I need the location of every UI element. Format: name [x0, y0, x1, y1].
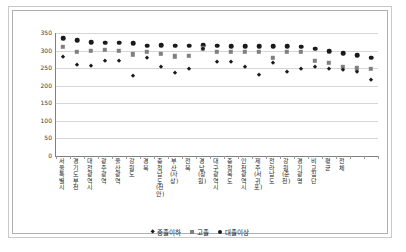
y-axis-tick-label: 0 [48, 153, 52, 159]
data-point [75, 63, 80, 68]
x-axis-label: 경남(창원) [198, 158, 206, 184]
chart-canvas: 050100150200250300350 서울특별시경기도부천대전광역시광주광… [12, 10, 388, 234]
x-axis-label: 경기도부천 [72, 158, 80, 191]
data-point [369, 55, 374, 60]
data-point [215, 43, 220, 48]
data-point [61, 54, 66, 59]
plot-area: 050100150200250300350 [55, 33, 378, 157]
data-point [159, 52, 163, 56]
data-point [313, 59, 317, 63]
gridline [56, 138, 378, 139]
data-point [243, 44, 248, 49]
data-point [117, 48, 121, 52]
y-axis-tick-label: 150 [41, 100, 52, 106]
gridline [56, 33, 378, 34]
data-point [257, 44, 262, 49]
data-point [61, 45, 65, 49]
y-axis-tick-label: 350 [41, 30, 52, 36]
x-axis-label: 충청북도 [226, 158, 234, 184]
data-point [299, 50, 303, 54]
chart-legend: 중졸이하고졸대졸이상 [13, 227, 387, 237]
x-axis-label: 인천광역시 [240, 158, 248, 191]
chart-screenshot: 050100150200250300350 서울특별시경기도부천대전광역시광주광… [0, 0, 406, 252]
y-axis-tick-label: 300 [41, 48, 52, 54]
data-point [271, 44, 276, 49]
data-point [187, 43, 192, 48]
legend-label: 대졸이상 [225, 227, 249, 237]
data-point [355, 53, 360, 58]
data-point [103, 47, 107, 51]
x-axis-label: 평균 [324, 158, 332, 171]
data-point [103, 41, 108, 46]
x-axis-label: 비교집단 [310, 158, 318, 184]
y-axis-tick-label: 200 [41, 83, 52, 89]
gridline [56, 103, 378, 104]
data-point [117, 41, 122, 46]
y-axis-tick-label: 100 [41, 118, 52, 124]
x-axis-label: 울산광역 [114, 158, 122, 184]
data-point [131, 41, 136, 46]
data-point [173, 71, 178, 76]
x-axis-label: 광주광역 [100, 158, 108, 184]
y-axis-tick-label: 50 [44, 135, 52, 141]
data-point [285, 49, 289, 53]
legend-label: 중졸이하 [157, 227, 181, 237]
x-axis-label: 경기광명 [296, 158, 304, 184]
x-axis-label: 대구광역시 [212, 158, 220, 191]
data-point [229, 59, 234, 64]
data-point [229, 44, 234, 49]
data-point [173, 54, 177, 58]
data-point [173, 43, 178, 48]
data-point [187, 54, 191, 58]
x-axis-label: 충청남도(천안) [156, 158, 164, 198]
data-point [145, 49, 149, 53]
legend-label: 고졸 [197, 227, 209, 237]
data-point [285, 69, 290, 74]
x-axis-label: 경북 [142, 158, 150, 171]
y-axis-tick-label: 250 [41, 65, 52, 71]
x-axis-label: 부산(사상) [170, 158, 178, 184]
data-point [103, 59, 108, 64]
data-point [61, 36, 66, 41]
gridline [56, 86, 378, 87]
x-axis-labels: 서울특별시경기도부천대전광역시광주광역울산광역강원도경북충청남도(천안)부산(사… [55, 158, 377, 220]
data-point [257, 50, 261, 54]
data-point [285, 44, 290, 49]
data-point [215, 59, 220, 64]
legend-item: 대졸이상 [218, 227, 249, 237]
data-point [145, 55, 150, 60]
x-axis-tick [378, 156, 379, 159]
data-point [327, 49, 332, 54]
x-axis-label: 강원도 [128, 158, 136, 178]
data-point [257, 73, 262, 78]
diamond-marker-icon [150, 230, 155, 235]
data-point [89, 48, 93, 52]
data-point [299, 44, 304, 49]
data-point [369, 78, 374, 83]
data-point [131, 73, 136, 78]
data-point [229, 50, 233, 54]
data-point [159, 43, 164, 48]
x-axis-label: 전북 [184, 158, 192, 171]
data-point [341, 51, 346, 56]
data-point [131, 52, 135, 56]
legend-item: 고졸 [190, 227, 209, 237]
data-point [313, 47, 318, 52]
legend-item: 중졸이하 [151, 227, 181, 237]
x-axis-label: 전라남도 [268, 158, 276, 184]
data-point [369, 67, 373, 71]
data-point [75, 38, 80, 43]
x-axis-label: 전체 [338, 158, 346, 171]
data-point [299, 67, 304, 72]
data-point [75, 50, 79, 54]
data-point [117, 59, 122, 64]
square-marker-icon [190, 230, 194, 234]
data-point [89, 40, 94, 45]
data-point [341, 68, 346, 73]
x-axis-label: 대전광역시 [86, 158, 94, 191]
data-point [327, 60, 331, 64]
gridline [56, 121, 378, 122]
data-point [145, 43, 150, 48]
x-axis-label: 강원(춘천) [282, 158, 290, 184]
x-axis-label: 제주(서귀포) [254, 158, 262, 191]
